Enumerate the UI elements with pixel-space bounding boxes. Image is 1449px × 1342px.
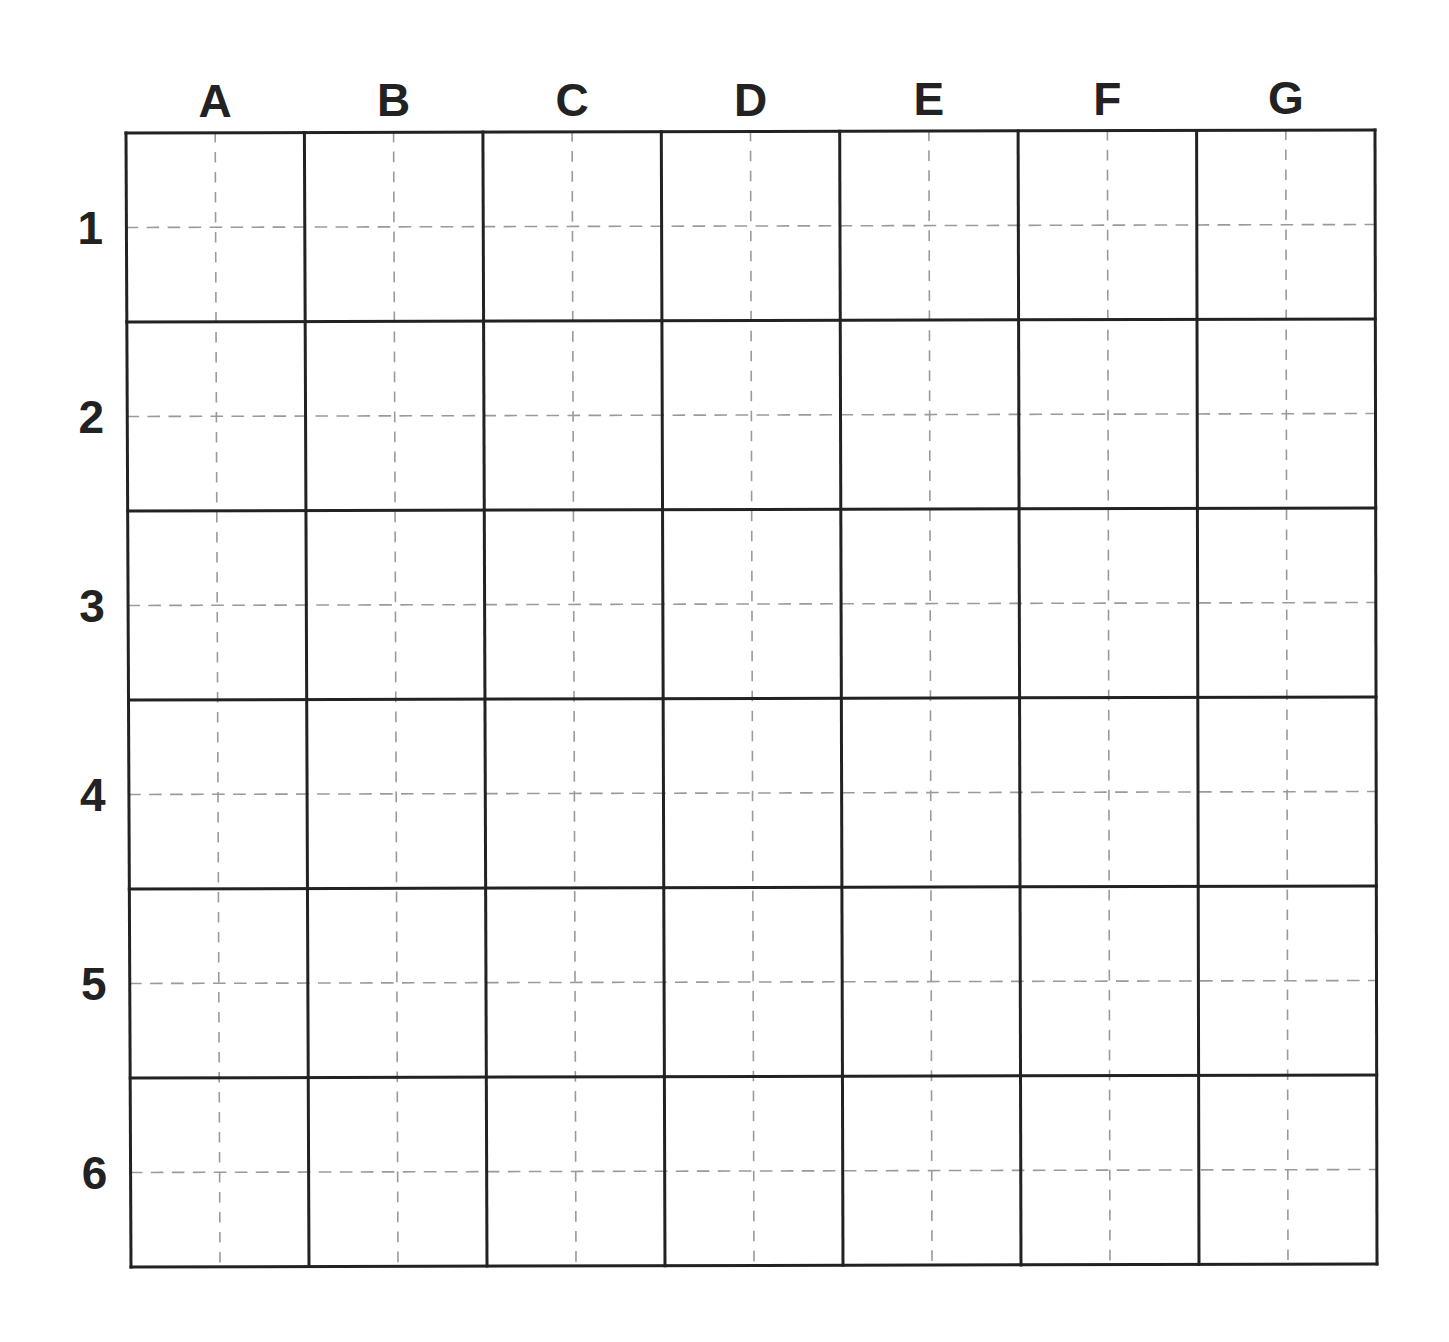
column-label-g: G bbox=[1268, 75, 1304, 121]
row-label-6: 6 bbox=[82, 1150, 108, 1196]
row-label-2: 2 bbox=[78, 394, 104, 440]
column-label-c: C bbox=[555, 77, 588, 123]
row-label-5: 5 bbox=[81, 961, 107, 1007]
grid-lines bbox=[0, 0, 1449, 1342]
column-label-b: B bbox=[377, 77, 410, 123]
column-label-f: F bbox=[1093, 76, 1121, 122]
row-label-4: 4 bbox=[80, 772, 106, 818]
row-label-1: 1 bbox=[78, 205, 104, 251]
grid-diagram: A B C D E F G 1 2 3 4 5 6 bbox=[0, 0, 1449, 1342]
column-label-a: A bbox=[199, 78, 232, 124]
column-label-d: D bbox=[734, 77, 767, 123]
row-label-3: 3 bbox=[79, 583, 105, 629]
column-label-e: E bbox=[914, 76, 945, 122]
